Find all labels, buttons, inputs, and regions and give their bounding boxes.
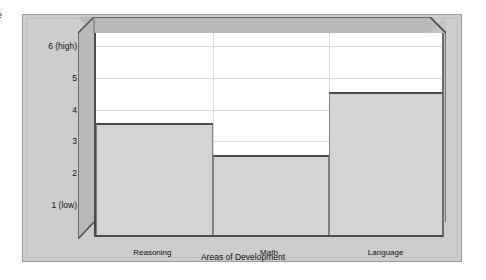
y-tick-1: 1 (low) [51,201,77,210]
clipped-edge-text: e [0,11,2,20]
gridline [96,46,442,47]
y-tick-3: 3 [72,137,77,146]
bar-math[interactable] [213,155,330,235]
y-tick-5: 5 [72,74,77,83]
plot-area [94,33,444,237]
chart-panel: 1 (low)23456 (high) ReasoningMathLanguag… [22,14,462,262]
chart-figure: e 1 (low)23456 (high) ReasoningMathLangu… [0,0,486,280]
y-axis-tick-labels: 1 (low)23456 (high) [23,15,77,263]
y-tick-4: 4 [72,106,77,115]
bar-reasoning[interactable] [96,123,213,235]
gridline [96,78,442,79]
chart-plot-3d [78,17,446,239]
y-tick-2: 2 [72,169,77,178]
x-axis-title: Areas of Development [23,253,463,262]
y-tick-6: 6 (high) [48,42,77,51]
bar-language[interactable] [329,92,444,235]
